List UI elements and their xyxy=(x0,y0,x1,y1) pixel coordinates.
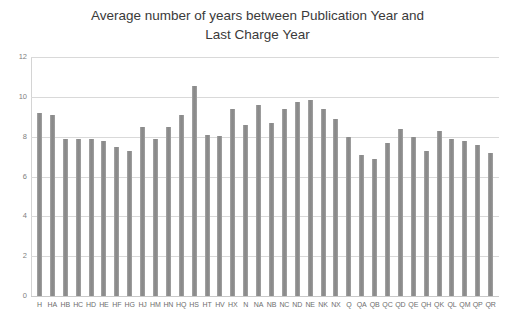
x-axis-tick-label: ND xyxy=(291,300,304,309)
bar-slot xyxy=(252,57,265,296)
bar[interactable] xyxy=(50,115,55,296)
bar-slot xyxy=(59,57,72,296)
bar-slot xyxy=(213,57,226,296)
bar-slot xyxy=(329,57,342,296)
bar[interactable] xyxy=(153,139,158,296)
x-axis-tick-label: HT xyxy=(201,300,214,309)
bar[interactable] xyxy=(230,109,235,296)
bar-slot xyxy=(123,57,136,296)
bar[interactable] xyxy=(243,125,248,296)
x-axis-tick-label: HC xyxy=(72,300,85,309)
bar[interactable] xyxy=(205,135,210,296)
bar[interactable] xyxy=(166,127,171,296)
bar[interactable] xyxy=(359,155,364,296)
bar[interactable] xyxy=(37,113,42,296)
plot-area xyxy=(31,57,499,296)
bar-slot xyxy=(446,57,459,296)
bar[interactable] xyxy=(333,119,338,296)
bar[interactable] xyxy=(192,86,197,296)
x-axis-tick-label: NK xyxy=(317,300,330,309)
x-axis-tick-label: QM xyxy=(458,300,471,309)
y-axis-tick-label: 8 xyxy=(5,133,27,141)
bar[interactable] xyxy=(89,139,94,296)
bar-slot xyxy=(110,57,123,296)
x-axis-tick-label: QC xyxy=(381,300,394,309)
bars-group xyxy=(31,57,499,296)
bar[interactable] xyxy=(346,137,351,296)
bar-slot xyxy=(33,57,46,296)
bar[interactable] xyxy=(63,139,68,296)
x-axis-tick-label: NX xyxy=(329,300,342,309)
y-axis-tick-label: 10 xyxy=(5,93,27,101)
y-axis-tick-label: 2 xyxy=(5,252,27,260)
x-axis-tick-label: QB xyxy=(368,300,381,309)
x-axis-tick-label: QD xyxy=(394,300,407,309)
bar[interactable] xyxy=(101,141,106,296)
x-axis-tick-labels: HHAHBHCHDHEHFHGHJHMHNHQHSHTHVHXNNANBNCND… xyxy=(31,300,499,309)
bar-slot xyxy=(97,57,110,296)
bar[interactable] xyxy=(217,136,222,296)
y-axis-tick-label: 6 xyxy=(5,173,27,181)
bar-slot xyxy=(407,57,420,296)
x-axis-tick-label: QE xyxy=(407,300,420,309)
x-axis-tick-label: Q xyxy=(342,300,355,309)
x-axis-tick-label: HB xyxy=(59,300,72,309)
x-axis-tick-label: NA xyxy=(252,300,265,309)
bar-slot xyxy=(420,57,433,296)
x-axis-tick-label: N xyxy=(239,300,252,309)
bar[interactable] xyxy=(488,153,493,296)
bar-slot xyxy=(162,57,175,296)
bar[interactable] xyxy=(462,141,467,296)
bar[interactable] xyxy=(76,139,81,296)
gridline xyxy=(31,296,499,297)
bar-slot xyxy=(278,57,291,296)
x-axis-tick-label: HJ xyxy=(136,300,149,309)
bar-slot xyxy=(46,57,59,296)
bar[interactable] xyxy=(269,123,274,296)
x-axis-tick-label: QL xyxy=(446,300,459,309)
bar-slot xyxy=(239,57,252,296)
x-axis-tick-label: QA xyxy=(355,300,368,309)
x-axis-tick-label: HM xyxy=(149,300,162,309)
bar[interactable] xyxy=(308,100,313,296)
bar-slot xyxy=(136,57,149,296)
bar[interactable] xyxy=(140,127,145,296)
bar-slot xyxy=(355,57,368,296)
x-axis-tick-label: HA xyxy=(46,300,59,309)
bar[interactable] xyxy=(127,151,132,296)
bar-slot xyxy=(291,57,304,296)
bar[interactable] xyxy=(256,105,261,296)
bar[interactable] xyxy=(385,143,390,296)
bar[interactable] xyxy=(437,131,442,296)
bar-chart-figure: Average number of years between Publicat… xyxy=(0,0,505,328)
bar[interactable] xyxy=(475,145,480,296)
bar[interactable] xyxy=(424,151,429,296)
bar-slot xyxy=(149,57,162,296)
bar[interactable] xyxy=(411,137,416,296)
bar[interactable] xyxy=(321,109,326,296)
x-axis-tick-label: HQ xyxy=(175,300,188,309)
bar-slot xyxy=(342,57,355,296)
bar-slot xyxy=(304,57,317,296)
x-axis-tick-label: HF xyxy=(110,300,123,309)
bar[interactable] xyxy=(282,109,287,296)
bar-slot xyxy=(85,57,98,296)
x-axis-tick-label: HE xyxy=(97,300,110,309)
bar[interactable] xyxy=(179,115,184,296)
bar[interactable] xyxy=(372,159,377,296)
bar[interactable] xyxy=(398,129,403,296)
y-axis-tick-label: 12 xyxy=(5,53,27,61)
bar-slot xyxy=(265,57,278,296)
x-axis-tick-label: QR xyxy=(484,300,497,309)
y-axis-tick-label: 0 xyxy=(5,292,27,300)
bar-slot xyxy=(317,57,330,296)
bar-slot xyxy=(188,57,201,296)
x-axis-tick-label: QH xyxy=(420,300,433,309)
bar-slot xyxy=(458,57,471,296)
bar[interactable] xyxy=(295,102,300,296)
bar-slot xyxy=(471,57,484,296)
bar-slot xyxy=(394,57,407,296)
bar[interactable] xyxy=(449,139,454,296)
bar-slot xyxy=(175,57,188,296)
bar[interactable] xyxy=(114,147,119,296)
